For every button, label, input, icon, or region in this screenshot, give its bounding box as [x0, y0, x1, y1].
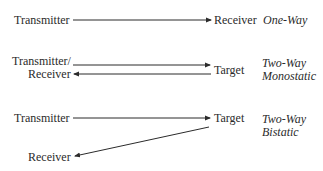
transmitter-label-bistatic: Transmitter: [14, 112, 70, 124]
bistatic-return-arrow: [75, 127, 209, 156]
receiver-label-bistatic: Receiver: [28, 151, 71, 163]
transmitter-receiver-label-line2: Receiver: [28, 68, 71, 80]
target-label-bistatic: Target: [214, 112, 244, 124]
mode-label-two-way-monostatic-line1: Two-Way: [262, 57, 306, 69]
mode-label-two-way-monostatic-line2: Monostatic: [262, 70, 316, 82]
transmitter-label: Transmitter: [14, 14, 70, 26]
radar-geometry-diagram: Transmitter Receiver One-Way Transmitter…: [0, 0, 323, 171]
mode-label-two-way-bistatic-line1: Two-Way: [262, 113, 306, 125]
transmitter-receiver-label-line1: Transmitter/: [12, 55, 71, 67]
target-label-monostatic: Target: [214, 64, 244, 76]
mode-label-two-way-bistatic-line2: Bistatic: [262, 126, 299, 138]
receiver-label: Receiver: [214, 14, 257, 26]
mode-label-one-way: One-Way: [263, 14, 307, 26]
